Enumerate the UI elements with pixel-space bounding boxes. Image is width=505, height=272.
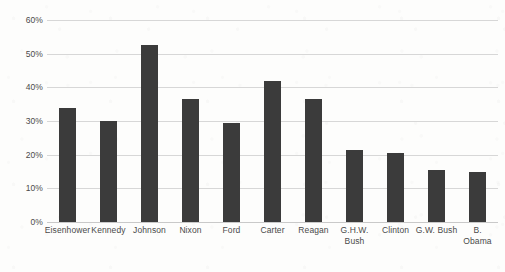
x-tick-label: G.W. Bush — [416, 225, 458, 236]
y-tick-label: 30% — [3, 116, 43, 126]
bar — [59, 108, 76, 222]
bar — [469, 172, 486, 223]
bar — [223, 123, 240, 222]
y-tick-label: 20% — [3, 150, 43, 160]
gridline-0 — [47, 222, 498, 223]
x-tick-label: Johnson — [133, 225, 166, 236]
bar — [182, 99, 199, 222]
x-tick-label: Nixon — [179, 225, 201, 236]
bar — [346, 150, 363, 222]
x-tick-label: Carter — [260, 225, 284, 236]
x-tick-label: Clinton — [382, 225, 409, 236]
bar — [387, 153, 404, 222]
x-tick-label: Reagan — [298, 225, 328, 236]
x-axis: EisenhowerKennedyJohnsonNixonFordCarterR… — [47, 225, 498, 267]
bar — [305, 99, 322, 222]
bar — [428, 170, 445, 222]
x-tick-label: B. Obama — [463, 225, 491, 247]
y-tick-label: 10% — [3, 183, 43, 193]
y-axis: 0%10%20%30%40%50%60% — [0, 20, 43, 222]
x-tick-label: G.H.W. Bush — [341, 225, 369, 247]
bar — [141, 45, 158, 222]
y-tick-label: 0% — [3, 217, 43, 227]
y-tick-label: 60% — [3, 15, 43, 25]
bar — [264, 81, 281, 222]
bar — [100, 121, 117, 222]
bar-series — [47, 20, 498, 222]
x-tick-label: Eisenhower — [45, 225, 90, 236]
bar-chart: 0%10%20%30%40%50%60% EisenhowerKennedyJo… — [0, 0, 505, 272]
x-tick-label: Ford — [223, 225, 241, 236]
y-tick-label: 50% — [3, 49, 43, 59]
y-tick-label: 40% — [3, 82, 43, 92]
x-tick-label: Kennedy — [91, 225, 125, 236]
